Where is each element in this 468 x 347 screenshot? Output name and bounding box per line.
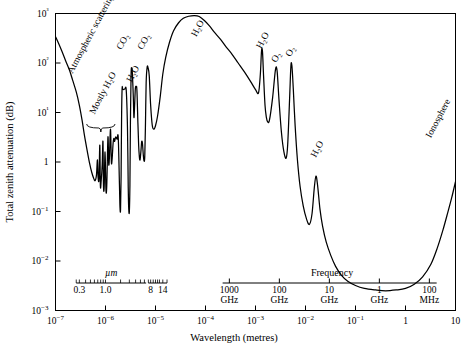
x-tick-label: 10 (451, 316, 461, 326)
annotation-ionosphere: Ionosphere (424, 97, 453, 139)
um-tick-label: 0.3 (73, 285, 85, 295)
annotation-h2o-ir: H₂O (124, 64, 141, 84)
y-tick-label: 10−3 (32, 304, 49, 316)
freq-tick-label: 10 (325, 285, 335, 295)
um-axis-label: µm (105, 268, 117, 278)
freq-tick-label: 1000 (220, 285, 239, 295)
y-axis-label: Total zenith attenuation (dB) (4, 101, 16, 222)
annotation-atmospheric-scattering: Atmospheric scattering (66, 0, 116, 75)
annotation-co2-1: CO₂ (115, 32, 132, 51)
attenuation-chart: 10−310−210−1110¹10²10³10−710−610−510−410… (0, 0, 468, 347)
um-tick-label: 14 (158, 285, 168, 295)
freq-tick-unit: GHz (220, 295, 238, 305)
freq-tick-unit: GHz (320, 295, 338, 305)
y-tick-label: 10−2 (32, 254, 49, 266)
um-tick-label: 8 (148, 285, 153, 295)
x-tick-label: 10−6 (97, 314, 114, 326)
x-axis-label: Wavelength (metres) (190, 332, 278, 344)
y-tick-label: 10³ (37, 7, 49, 19)
freq-tick-label: 100 (272, 285, 287, 295)
freq-tick-unit: GHz (270, 295, 288, 305)
annotation-mostly-h2o: Mostly H₂O (87, 70, 118, 116)
annotation-h2o-22: H₂O (309, 139, 326, 159)
freq-axis-label: Frequency (311, 267, 353, 278)
x-tick-label: 1 (403, 316, 408, 326)
x-tick-label: 10−4 (197, 314, 214, 326)
freq-tick-label: 100 (422, 285, 437, 295)
y-tick-label: 10¹ (37, 106, 49, 118)
x-tick-label: 10−2 (297, 314, 314, 326)
y-tick-label: 1 (44, 157, 49, 167)
annotation-o2-2: O₂ (283, 45, 297, 59)
plot-frame (56, 14, 456, 311)
freq-tick-unit: MHz (420, 295, 440, 305)
chart-svg: 10−310−210−1110¹10²10³10−710−610−510−410… (0, 0, 468, 347)
x-tick-label: 10−5 (147, 314, 164, 326)
annotation-o2-1: O₂ (269, 50, 283, 64)
annotation-co2-2: CO₂ (135, 32, 152, 51)
x-tick-label: 10−3 (247, 314, 264, 326)
x-tick-label: 10−7 (47, 314, 64, 326)
annotation-h2o-183: H₂O (254, 30, 271, 50)
y-tick-label: 10−1 (32, 205, 49, 217)
y-tick-label: 10² (37, 56, 49, 68)
annotation-h2o-submm: H₂O (189, 18, 206, 38)
um-tick-label: 1.0 (100, 285, 112, 295)
x-tick-label: 10−1 (347, 314, 364, 326)
freq-tick-unit: GHz (370, 295, 388, 305)
attenuation-curve (56, 16, 456, 291)
